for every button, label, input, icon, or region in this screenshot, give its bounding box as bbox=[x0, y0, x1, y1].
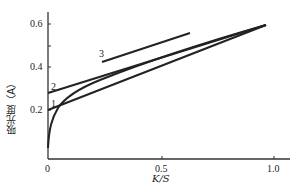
line-1-label: 1 bbox=[51, 98, 56, 109]
y-axis-label: 吸光度（A） bbox=[4, 78, 19, 135]
line-2 bbox=[48, 25, 266, 93]
line-3 bbox=[102, 33, 190, 62]
x-axis-label: K/S bbox=[152, 173, 170, 184]
line-2-label: 2 bbox=[51, 81, 56, 92]
y-tick-0.4: 0.4 bbox=[30, 61, 43, 72]
line-1 bbox=[48, 25, 266, 110]
x-tick-0: 0 bbox=[45, 163, 50, 174]
y-tick-0.6: 0.6 bbox=[30, 18, 43, 29]
y-tick-0.2: 0.2 bbox=[30, 104, 43, 115]
x-tick-1.0: 1.0 bbox=[267, 163, 280, 174]
line-3-label: 3 bbox=[99, 48, 104, 59]
chart: 0.6 0.4 0.2 0 0.5 1.0 吸光度（A） K/S 1 2 3 bbox=[0, 0, 302, 192]
